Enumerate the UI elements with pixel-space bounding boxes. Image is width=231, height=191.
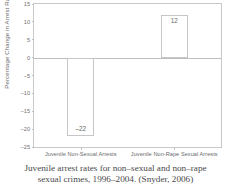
y-axis-tick: –15 — [21, 108, 34, 114]
y-axis-tick-mark — [32, 75, 35, 76]
x-axis-tick-label: Juvenile Non-Rape Sexual Arrests — [131, 151, 218, 157]
bar-value-label: –22 — [75, 125, 86, 132]
y-axis-tick-label: –20 — [21, 126, 32, 132]
x-axis-tick-label: Juvenile Non-Sexual Arrests — [45, 151, 117, 157]
y-axis-label: Percentage Change in Arrest Rates — [4, 0, 16, 99]
y-axis-tick-mark — [32, 111, 35, 112]
zero-baseline — [34, 58, 221, 59]
y-axis-tick-label: 15 — [24, 1, 32, 7]
y-axis-tick-mark — [32, 39, 35, 40]
y-axis-tick-label: –5 — [24, 73, 32, 79]
y-axis-tick: –10 — [21, 90, 34, 96]
y-axis-tick-mark — [32, 4, 35, 5]
figure: Percentage Change in Arrest Rates 151050… — [0, 0, 231, 191]
y-axis-tick: 5 — [27, 37, 34, 43]
y-axis-tick: 15 — [24, 1, 34, 7]
y-axis-tick-mark — [32, 93, 35, 94]
chart-plot-area: Percentage Change in Arrest Rates 151050… — [0, 0, 231, 163]
bar-value-label: 12 — [171, 17, 178, 24]
caption-line-2: sexual crimes, 1996–2004. (Snyder, 2006) — [0, 174, 231, 185]
x-axis-tick-mark — [174, 147, 175, 150]
x-axis-tick-mark — [81, 147, 82, 150]
y-axis-tick-label: –15 — [21, 108, 32, 114]
y-axis-tick-label: –10 — [21, 90, 32, 96]
y-axis-tick: 10 — [24, 19, 34, 25]
y-axis-tick-mark — [32, 147, 35, 148]
y-axis-tick-mark — [32, 129, 35, 130]
y-axis-tick-mark — [32, 57, 35, 58]
y-axis-tick: –25 — [21, 144, 34, 150]
caption-line-1: Juvenile arrest rates for non–sexual and… — [0, 163, 231, 174]
y-axis-tick-label: –25 — [21, 144, 32, 150]
y-axis-tick: –5 — [24, 73, 34, 79]
figure-caption: Juvenile arrest rates for non–sexual and… — [0, 163, 231, 186]
y-axis-tick: –20 — [21, 126, 34, 132]
plot-frame: 151050–5–10–15–20–25 –2212 Juvenile Non-… — [33, 3, 222, 148]
y-axis-tick: 0 — [27, 55, 34, 61]
y-axis-tick-mark — [32, 21, 35, 22]
y-axis-tick-label: 10 — [24, 19, 32, 25]
